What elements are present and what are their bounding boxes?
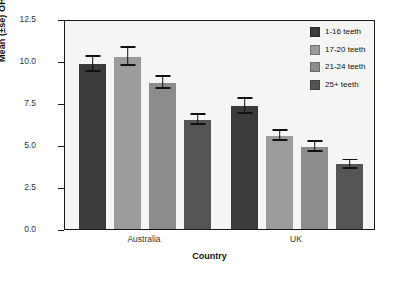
error-bar-cap [190,113,205,115]
legend-label: 1-16 teeth [325,27,361,37]
legend-label: 25+ teeth [325,80,359,90]
legend-swatch-icon [310,45,320,55]
bar [231,106,258,229]
error-bar-cap [155,75,170,77]
chart-legend: 1-16 teeth17-20 teeth21-24 teeth25+ teet… [310,27,365,97]
bar [266,136,293,229]
legend-item: 1-16 teeth [310,27,365,37]
legend-item: 21-24 teeth [310,62,365,72]
error-bar-cap [342,159,357,161]
legend-item: 25+ teeth [310,80,365,90]
legend-label: 17-20 teeth [325,45,365,55]
y-tick-mark [58,230,64,231]
error-bar-cap [120,46,135,48]
chart-figure: Mean (±se) OHIP sum score 0.02.55.07.510… [0,0,419,284]
error-bar-cap [120,64,135,66]
error-bar-cap [342,167,357,169]
bar [79,64,106,229]
error-bar-cap [307,140,322,142]
y-axis-title: Mean (±se) OHIP sum score [0,0,7,62]
error-bar-cap [155,87,170,89]
error-bar-cap [307,150,322,152]
error-bar-cap [237,97,252,99]
legend-label: 21-24 teeth [325,62,365,72]
error-bar-cap [272,139,287,141]
legend-swatch-icon [310,62,320,72]
y-tick-label: 12.5 [6,15,36,24]
bar [336,164,363,229]
x-group-label-australia: Australia [104,234,184,244]
error-bar-cap [85,55,100,57]
y-tick-label: 7.5 [6,99,36,108]
legend-swatch-icon [310,80,320,90]
x-group-label-uk: UK [256,234,336,244]
legend-item: 17-20 teeth [310,45,365,55]
error-bar-cap [272,129,287,131]
bar [301,147,328,229]
y-tick-label: 10.0 [6,57,36,66]
error-bar [127,48,129,66]
error-bar-cap [85,70,100,72]
error-bar-cap [190,123,205,125]
y-tick-label: 0.0 [6,225,36,234]
bar [149,83,176,229]
bar [114,57,141,229]
x-axis-title: Country [0,251,419,261]
error-bar-cap [237,112,252,114]
legend-swatch-icon [310,27,320,37]
y-tick-label: 2.5 [6,183,36,192]
bar [184,120,211,229]
y-tick-label: 5.0 [6,141,36,150]
